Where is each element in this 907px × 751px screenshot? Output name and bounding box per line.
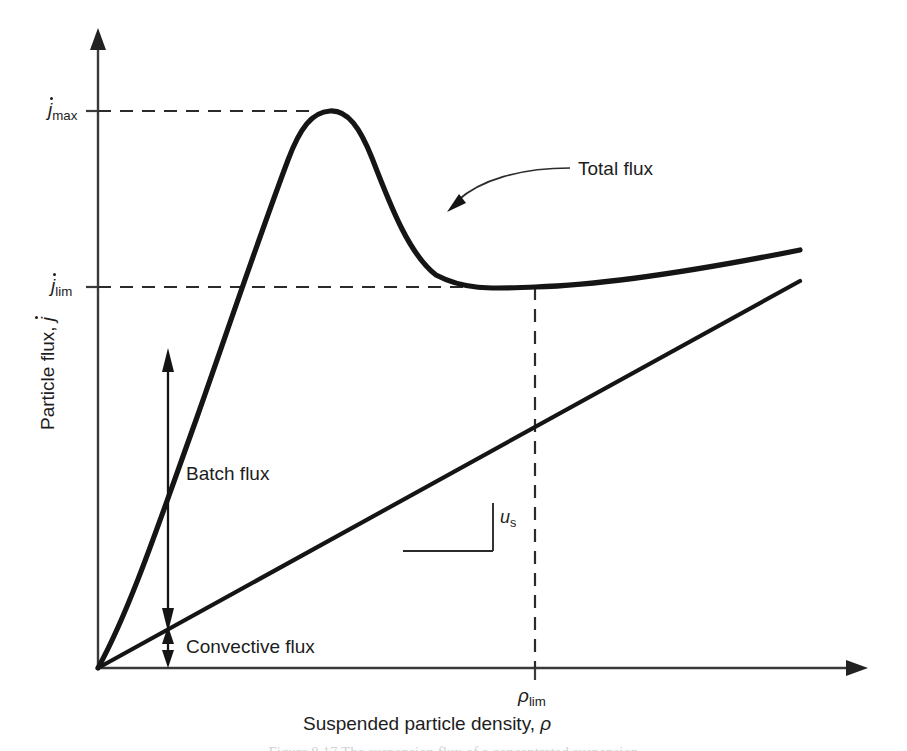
annotation-slope-us: us: [500, 508, 516, 526]
x-axis-title: Suspended particle density, ρ: [303, 714, 551, 733]
total-flux-leader-line: [457, 168, 570, 201]
tick-label-rho-lim-subscript: lim: [529, 694, 546, 709]
y-axis-title-symbol: j: [38, 317, 57, 321]
y-axis-title: Particle flux, j: [38, 317, 57, 430]
tick-label-j-lim: jlim: [51, 276, 72, 295]
tick-label-rho-lim: ρlim: [518, 686, 546, 705]
annotation-total-flux: Total flux: [578, 159, 653, 178]
curve-total-flux: [98, 111, 800, 668]
slope-symbol: u: [500, 507, 510, 527]
x-axis-title-text: Suspended particle density,: [303, 713, 540, 734]
figure-caption-faint: Figure 8.17 The suspension flux of a con…: [0, 744, 907, 751]
tick-label-rho-lim-symbol: ρ: [518, 685, 529, 706]
batch-flux-arrowhead-top: [162, 348, 174, 372]
annotation-batch-flux: Batch flux: [186, 464, 269, 483]
x-axis-title-symbol: ρ: [540, 713, 551, 734]
x-axis-arrowhead: [846, 660, 868, 676]
flux-plot-canvas: [0, 0, 907, 751]
tick-label-j-max: jmax: [48, 100, 77, 119]
figure-root: Particle flux, j jmax jlim ρlim Suspende…: [0, 0, 907, 751]
tick-label-j-max-subscript: max: [52, 108, 77, 123]
tick-label-j-lim-subscript: lim: [55, 284, 72, 299]
y-axis-arrowhead: [90, 28, 106, 50]
convective-flux-arrowhead-bottom: [162, 650, 174, 668]
slope-subscript: s: [510, 516, 516, 530]
y-axis-title-text: Particle flux,: [37, 321, 58, 430]
annotation-convective-flux: Convective flux: [186, 637, 315, 656]
